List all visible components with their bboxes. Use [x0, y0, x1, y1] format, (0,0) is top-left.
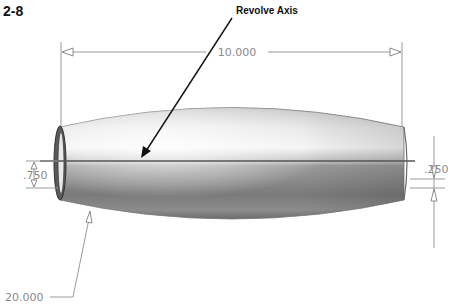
arc-radius-dimension: 20.000	[5, 211, 92, 304]
revolved-body	[54, 108, 407, 220]
right-end-edge	[404, 127, 407, 200]
wall-thickness-dimension: .250	[410, 136, 449, 248]
leader-arrowhead-icon	[86, 211, 92, 223]
technical-drawing: 2-8 10.000 Revolve Axis .750	[0, 0, 450, 306]
revolve-axis-label: Revolve Axis	[236, 5, 298, 16]
arc-radius-value: 20.000	[5, 291, 44, 304]
left-end-bore	[58, 132, 64, 194]
length-dimension-value: 10.000	[218, 46, 257, 59]
arrowhead-right-icon	[390, 48, 401, 56]
arrowhead-up-icon	[431, 189, 437, 201]
left-radius-dimension: .750	[23, 161, 58, 188]
figure-label: 2-8	[3, 3, 23, 19]
arrowhead-up-icon	[31, 162, 37, 169]
wall-thickness-value: .250	[424, 163, 449, 176]
left-radius-value: .750	[23, 169, 48, 182]
arrowhead-left-icon	[62, 48, 73, 56]
